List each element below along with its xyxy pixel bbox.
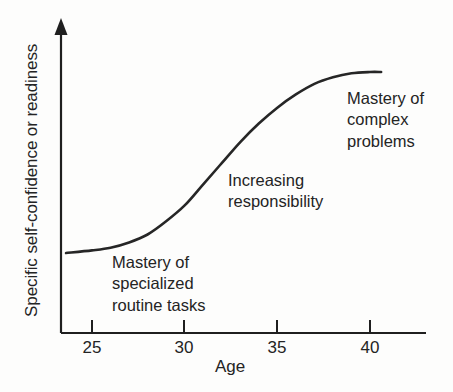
chart-figure: Specific self-confidence or readiness Ag… <box>0 0 453 392</box>
annotation-high-line-1: Mastery of <box>347 88 424 109</box>
x-tick-label-35: 35 <box>257 338 297 359</box>
annotation-low-line-1: Mastery of <box>112 252 206 273</box>
x-tick-label-40: 40 <box>350 338 390 359</box>
sigmoid-growth-curve <box>66 72 381 253</box>
annotation-mid-line-1: Increasing <box>228 170 323 191</box>
annotation-mid-line-2: responsibility <box>228 191 323 212</box>
annotation-mastery-complex-problems: Mastery of complex problems <box>347 88 424 152</box>
annotation-low-line-2: specialized <box>112 273 206 294</box>
x-tick-label-30: 30 <box>164 338 204 359</box>
annotation-low-line-3: routine tasks <box>112 295 206 316</box>
annotation-mastery-specialized-routine-tasks: Mastery of specialized routine tasks <box>112 252 206 316</box>
chart-plot-area <box>0 0 453 392</box>
y-axis-title: Specific self-confidence or readiness <box>22 30 43 330</box>
annotation-high-line-2: complex <box>347 109 424 130</box>
x-axis <box>61 320 426 333</box>
y-axis <box>55 18 68 333</box>
x-axis-title: Age <box>150 357 310 378</box>
annotation-increasing-responsibility: Increasing responsibility <box>228 170 323 213</box>
annotation-high-line-3: problems <box>347 131 424 152</box>
x-tick-label-25: 25 <box>72 338 112 359</box>
y-axis-arrowhead-icon <box>55 18 68 35</box>
